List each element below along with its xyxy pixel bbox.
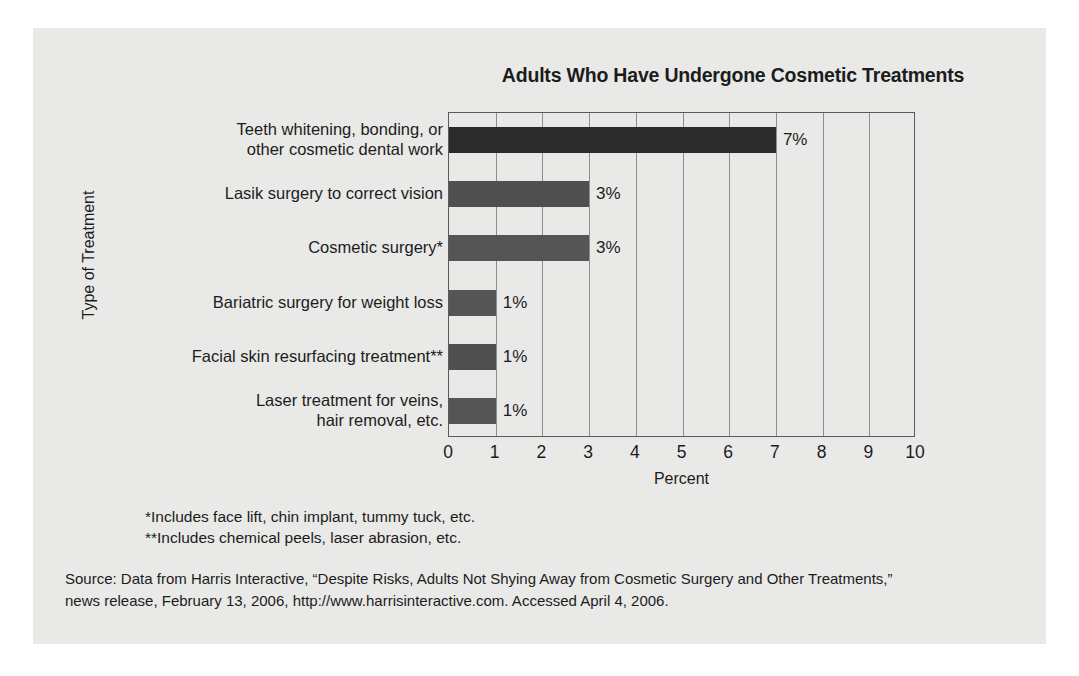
x-tick-label: 8 (817, 442, 827, 463)
x-tick-label: 3 (583, 442, 593, 463)
footnote: *Includes face lift, chin implant, tummy… (145, 506, 475, 527)
category-label-column: Teeth whitening, bonding, orother cosmet… (113, 112, 443, 437)
x-tick-label: 7 (770, 442, 780, 463)
gridline (636, 113, 637, 436)
x-tick-label: 4 (630, 442, 640, 463)
bar-value-label: 1% (503, 398, 528, 424)
category-label-line: hair removal, etc. (113, 410, 443, 430)
x-tick-label: 2 (537, 442, 547, 463)
category-label-line: Facial skin resurfacing treatment** (113, 346, 443, 366)
x-tick-label: 10 (905, 442, 924, 463)
bar (449, 398, 496, 424)
y-axis-title: Type of Treatment (80, 155, 98, 355)
gridline (729, 113, 730, 436)
gridline (823, 113, 824, 436)
bar (449, 235, 589, 261)
plot-area: 7%3%3%1%1%1% (448, 112, 915, 437)
category-label-line: Lasik surgery to correct vision (113, 183, 443, 203)
category-label: Laser treatment for veins,hair removal, … (113, 390, 443, 430)
chart-title: Adults Who Have Undergone Cosmetic Treat… (433, 64, 1033, 87)
footnote: **Includes chemical peels, laser abrasio… (145, 527, 475, 548)
category-label-line: Teeth whitening, bonding, or (113, 119, 443, 139)
x-tick-label: 6 (723, 442, 733, 463)
category-label: Cosmetic surgery* (113, 237, 443, 257)
bar-value-label: 3% (596, 235, 621, 261)
category-label-line: Bariatric surgery for weight loss (113, 292, 443, 312)
x-tick-label: 9 (863, 442, 873, 463)
category-label: Teeth whitening, bonding, orother cosmet… (113, 119, 443, 159)
x-tick-label: 1 (490, 442, 500, 463)
source-note: Source: Data from Harris Interactive, “D… (65, 568, 1015, 611)
footnotes: *Includes face lift, chin implant, tummy… (145, 506, 475, 548)
category-label-line: other cosmetic dental work (113, 139, 443, 159)
source-line-2: news release, February 13, 2006, http://… (65, 590, 1015, 612)
gridline (869, 113, 870, 436)
x-tick-label: 0 (443, 442, 453, 463)
gridline (589, 113, 590, 436)
category-label: Lasik surgery to correct vision (113, 183, 443, 203)
category-label-line: Cosmetic surgery* (113, 237, 443, 257)
category-label-line: Laser treatment for veins, (113, 390, 443, 410)
source-line-1: Source: Data from Harris Interactive, “D… (65, 568, 1015, 590)
bar-value-label: 7% (783, 127, 808, 153)
bar (449, 181, 589, 207)
bar (449, 344, 496, 370)
bar (449, 127, 776, 153)
gridline (776, 113, 777, 436)
bar (449, 290, 496, 316)
figure-card: Adults Who Have Undergone Cosmetic Treat… (33, 28, 1046, 644)
x-axis-title: Percent (448, 470, 915, 488)
bar-value-label: 3% (596, 181, 621, 207)
gridline (496, 113, 497, 436)
bar-value-label: 1% (503, 290, 528, 316)
category-label: Facial skin resurfacing treatment** (113, 346, 443, 366)
gridline (683, 113, 684, 436)
category-label: Bariatric surgery for weight loss (113, 292, 443, 312)
gridline (542, 113, 543, 436)
x-axis-tick-row: 012345678910 (448, 442, 915, 466)
x-tick-label: 5 (677, 442, 687, 463)
bar-value-label: 1% (503, 344, 528, 370)
